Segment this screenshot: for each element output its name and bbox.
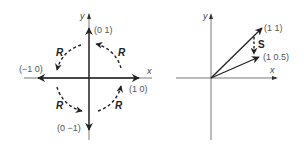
label-1-0: (1 0) [129, 84, 148, 94]
label-1-0.5: (1 0.5) [263, 52, 289, 62]
shear-label: S [258, 39, 265, 50]
left-y-axis-arrow-icon [87, 13, 91, 19]
right-x-axis-label: x [269, 65, 275, 75]
figure: y x (0 1) (−1 0) (0 −1) (1 0) R R R R y … [0, 0, 304, 149]
rotation-label-q4: R [115, 100, 123, 111]
right-panel: y x (1 1) (1 0.5) S [176, 11, 289, 140]
left-x-axis-label: x [146, 66, 152, 76]
left-panel: y x (0 1) (−1 0) (0 −1) (1 0) R R R R [19, 11, 152, 140]
right-x-axis-arrow-icon [272, 76, 278, 80]
rotation-label-q1: R [118, 47, 126, 58]
vector-1-0.5 [211, 57, 259, 78]
label-1-1: (1 1) [264, 23, 283, 33]
label-0-1: (0 1) [94, 25, 113, 35]
label-neg1-0: (−1 0) [19, 64, 43, 74]
rotation-label-q2: R [56, 47, 64, 58]
left-y-axis-label: y [79, 11, 85, 21]
rotation-label-q3: R [56, 100, 64, 111]
right-y-axis-arrow-icon [209, 13, 213, 19]
label-0-neg1: (0 −1) [57, 123, 81, 133]
right-y-axis-label: y [202, 11, 208, 21]
